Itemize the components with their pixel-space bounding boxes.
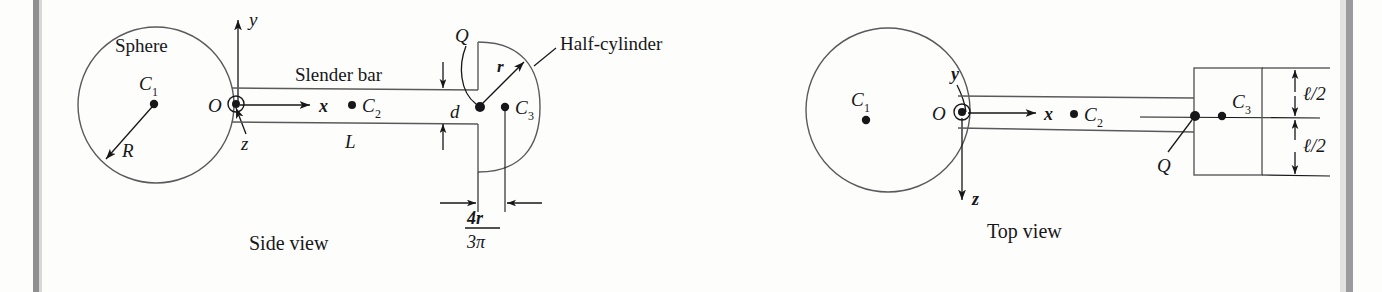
sphere-center-dot xyxy=(150,100,158,108)
point-q-label-top: Q xyxy=(1157,155,1171,176)
cylinder-centroid-label: C xyxy=(515,97,528,118)
point-q-label-side: Q xyxy=(455,25,469,46)
sphere-center-subscript: 1 xyxy=(152,85,158,99)
scan-edge-right xyxy=(1340,0,1353,292)
top-view-caption: Top view xyxy=(987,220,1062,243)
side-y-axis-label: y xyxy=(247,9,258,30)
top-x-axis-label: x xyxy=(1043,104,1053,124)
figure-page: Sphere C 1 R O y x z Slender bar C 2 L d… xyxy=(0,0,1382,292)
mechanics-figure: Sphere C 1 R O y x z Slender bar C 2 L d… xyxy=(0,0,1382,292)
scan-edge-left xyxy=(33,0,42,292)
top-y-axis-label: y xyxy=(949,64,960,84)
top-origin-label: O xyxy=(932,103,946,124)
cylinder-radius-label: r xyxy=(497,57,504,76)
side-x-axis-label: x xyxy=(318,96,328,116)
top-bar-centroid-dot xyxy=(1070,110,1078,118)
half-length-upper-label: ℓ/2 xyxy=(1303,83,1326,104)
top-sphere-center-subscript: 1 xyxy=(864,101,870,115)
bar-length-label: L xyxy=(344,131,356,152)
top-z-axis-label: z xyxy=(971,189,979,209)
centroid-numerator-label: 4r xyxy=(466,208,484,228)
top-origin-dot xyxy=(958,108,966,116)
page-background xyxy=(0,0,1382,292)
side-origin-dot xyxy=(232,100,240,108)
half-cylinder-label: Half-cylinder xyxy=(560,33,663,54)
slender-bar-label: Slender bar xyxy=(295,64,383,85)
sphere-center-label: C xyxy=(139,73,152,94)
top-block-centroid-dot xyxy=(1218,112,1226,120)
cylinder-centroid-dot xyxy=(501,103,509,111)
bar-centroid-dot xyxy=(348,101,356,109)
top-sphere-center-label: C xyxy=(851,89,864,110)
half-length-lower-label: ℓ/2 xyxy=(1303,135,1326,156)
top-block-centroid-subscript: 3 xyxy=(1245,103,1251,117)
bar-centroid-label: C xyxy=(362,95,375,116)
top-block-centroid-label: C xyxy=(1232,91,1245,112)
side-z-axis-label: z xyxy=(240,133,249,154)
top-bar-centroid-label: C xyxy=(1084,104,1097,125)
bar-centroid-subscript: 2 xyxy=(375,107,381,121)
top-bar-centroid-subscript: 2 xyxy=(1097,116,1103,130)
bar-depth-label: d xyxy=(450,101,460,122)
sphere-label: Sphere xyxy=(115,35,168,56)
centroid-denominator-label: 3π xyxy=(466,232,486,252)
cylinder-centroid-subscript: 3 xyxy=(528,109,534,123)
side-view-caption: Side view xyxy=(249,232,329,254)
side-origin-label: O xyxy=(208,95,222,116)
point-q-dot-side xyxy=(475,102,485,112)
sphere-radius-label: R xyxy=(121,140,134,161)
point-q-dot-top xyxy=(1190,111,1200,121)
top-sphere-center-dot xyxy=(862,116,870,124)
